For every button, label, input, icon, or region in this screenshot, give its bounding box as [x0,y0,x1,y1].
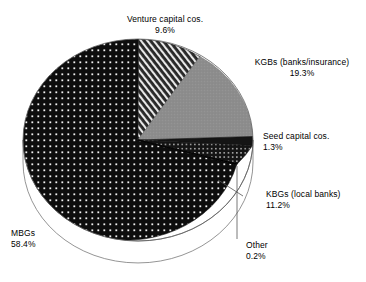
slice-label-other: Other 0.2% [246,240,268,261]
slice-label-kgbs: KGBs (banks/insurance) 19.3% [240,57,364,78]
slice-label-venture-capital: Venture capital cos. 9.6% [104,14,226,35]
slice-label-kbgs: KBGs (local banks) 11.2% [266,189,341,210]
slice-label-mbgs: MBGs 58.4% [11,228,36,249]
slice-label-kgbs-text: KGBs (banks/insurance) [255,57,349,67]
slice-label-mbgs-percent: 58.4% [11,239,36,250]
slice-label-other-text: Other [246,240,268,250]
slice-label-kbgs-text: KBGs (local banks) [266,189,341,199]
slice-label-seed-capital-text: Seed capital cos. [263,131,329,141]
slice-label-seed-capital-percent: 1.3% [263,142,329,153]
slice-label-mbgs-text: MBGs [11,228,35,238]
pie-chart: Venture capital cos. 9.6% KGBs (banks/in… [0,0,366,282]
slice-label-other-percent: 0.2% [246,251,268,262]
slice-label-kgbs-percent: 19.3% [240,68,364,79]
slice-label-seed-capital: Seed capital cos. 1.3% [263,131,329,152]
slice-label-venture-capital-percent: 9.6% [104,25,226,36]
slice-label-kbgs-percent: 11.2% [266,200,341,211]
slice-label-venture-capital-text: Venture capital cos. [127,14,203,24]
